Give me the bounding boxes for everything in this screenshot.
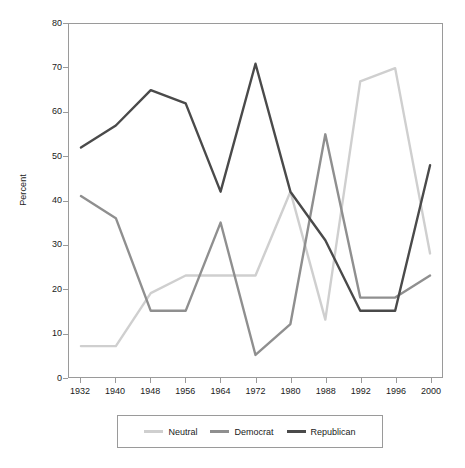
line-chart: Percent 01020304050607080 19321940194819… <box>0 0 465 468</box>
series-line-democrat <box>81 134 430 355</box>
x-tick-label: 1948 <box>130 386 170 397</box>
y-tick-label: 0 <box>36 374 62 383</box>
y-tick-label: 70 <box>36 63 62 72</box>
plot-area <box>68 23 443 378</box>
x-tick-label: 1980 <box>271 386 311 397</box>
x-tick-label: 2000 <box>411 386 451 397</box>
y-tick-label: 40 <box>36 196 62 205</box>
x-tick-mark <box>291 378 292 383</box>
x-tick-label: 1956 <box>165 386 205 397</box>
y-tick-label: 20 <box>36 285 62 294</box>
legend-item-democrat[interactable]: Democrat <box>210 427 273 437</box>
x-axis-tick-marks <box>68 378 443 384</box>
legend-swatch-democrat-icon <box>210 430 229 433</box>
x-tick-mark <box>115 378 116 383</box>
x-tick-label: 1964 <box>200 386 240 397</box>
y-tick-label: 30 <box>36 240 62 249</box>
x-tick-label: 1932 <box>60 386 100 397</box>
y-tick-label: 80 <box>36 19 62 28</box>
y-axis-title: Percent <box>18 150 28 230</box>
x-tick-mark <box>396 378 397 383</box>
legend-item-neutral[interactable]: Neutral <box>144 427 197 437</box>
x-tick-mark <box>361 378 362 383</box>
y-tick-label: 60 <box>36 107 62 116</box>
series-lines <box>69 24 442 377</box>
x-tick-mark <box>431 378 432 383</box>
x-tick-label: 1996 <box>376 386 416 397</box>
x-tick-mark <box>326 378 327 383</box>
x-tick-mark <box>220 378 221 383</box>
x-tick-label: 1940 <box>95 386 135 397</box>
x-tick-mark <box>256 378 257 383</box>
legend-swatch-republican-icon <box>287 430 306 433</box>
legend-label: Neutral <box>168 427 197 437</box>
legend-label: Democrat <box>234 427 273 437</box>
y-axis-tick-labels: 01020304050607080 <box>34 23 62 378</box>
x-tick-mark <box>185 378 186 383</box>
legend: NeutralDemocratRepublican <box>117 415 383 448</box>
series-line-neutral <box>81 68 430 346</box>
x-tick-label: 1992 <box>341 386 381 397</box>
legend-label: Republican <box>311 427 356 437</box>
legend-item-republican[interactable]: Republican <box>287 427 356 437</box>
x-tick-mark <box>150 378 151 383</box>
x-tick-mark <box>80 378 81 383</box>
x-tick-label: 1988 <box>306 386 346 397</box>
x-axis-tick-labels: 1932194019481956196419721980198819921996… <box>68 386 443 400</box>
y-tick-label: 10 <box>36 329 62 338</box>
x-tick-label: 1972 <box>236 386 276 397</box>
y-tick-label: 50 <box>36 152 62 161</box>
legend-swatch-neutral-icon <box>144 430 163 433</box>
